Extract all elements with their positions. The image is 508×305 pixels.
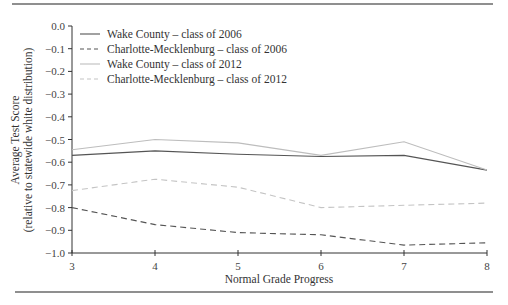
- x-tick-label: 8: [484, 260, 490, 272]
- x-tick-label: 7: [401, 260, 407, 272]
- y-axis-title: Average Test Score: [9, 96, 22, 185]
- series-line-1: [72, 208, 487, 246]
- legend-label: Charlotte-Mecklenburg – class of 2006: [107, 43, 287, 56]
- y-axis-subtitle: (relative to statewide white distributio…: [22, 48, 35, 233]
- y-tick-label: −0.7: [45, 179, 65, 191]
- x-tick-label: 5: [235, 260, 241, 272]
- y-axis: 0.0−0.1−0.2−0.3−0.4−0.5−0.6−0.7−0.8−0.9−…: [45, 20, 72, 259]
- legend-label: Charlotte-Mecklenburg – class of 2012: [107, 73, 287, 86]
- x-axis: 345678: [69, 250, 490, 272]
- y-tick-label: −1.0: [45, 247, 65, 259]
- series-line-2: [72, 140, 487, 171]
- series-line-3: [72, 179, 487, 207]
- y-tick-label: 0.0: [51, 20, 65, 32]
- y-tick-label: −0.3: [45, 88, 65, 100]
- series-line-0: [72, 151, 487, 170]
- y-tick-label: −0.9: [45, 224, 65, 236]
- x-tick-label: 3: [69, 260, 75, 272]
- y-tick-label: −0.4: [45, 111, 65, 123]
- y-tick-label: −0.2: [45, 65, 65, 77]
- y-tick-label: −0.5: [45, 134, 65, 146]
- x-tick-label: 6: [318, 260, 324, 272]
- line-chart: 0.0−0.1−0.2−0.3−0.4−0.5−0.6−0.7−0.8−0.9−…: [0, 0, 508, 305]
- y-tick-label: −0.1: [45, 43, 65, 55]
- legend-label: Wake County – class of 2012: [107, 58, 242, 71]
- y-tick-label: −0.8: [45, 202, 65, 214]
- y-tick-label: −0.6: [45, 156, 65, 168]
- legend-label: Wake County – class of 2006: [107, 28, 242, 41]
- x-axis-title: Normal Grade Progress: [225, 273, 334, 286]
- legend: Wake County – class of 2006Charlotte-Mec…: [80, 28, 287, 86]
- plot-series: [72, 140, 487, 246]
- x-tick-label: 4: [152, 260, 158, 272]
